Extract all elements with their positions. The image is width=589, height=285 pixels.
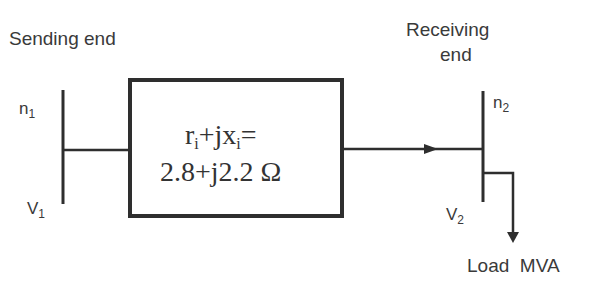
transmission-line-diagram: Sending end Receiving end n1 V1 ri+jxi= … bbox=[0, 0, 589, 285]
impedance-value: 2.8+j2.2 Ω bbox=[160, 156, 281, 187]
voltage1-label: V1 bbox=[27, 199, 45, 221]
power-flow-arrow-icon bbox=[424, 144, 438, 154]
node1-label: n1 bbox=[19, 99, 35, 121]
receiving-end-label-line2: end bbox=[440, 44, 472, 65]
node2-label: n2 bbox=[493, 93, 509, 115]
load-branch bbox=[483, 173, 513, 235]
impedance-formula: ri+jxi= bbox=[185, 119, 257, 152]
load-mva-label: Load MVA bbox=[467, 255, 560, 276]
voltage2-label: V2 bbox=[446, 205, 464, 227]
load-arrow-icon bbox=[507, 232, 519, 243]
sending-end-label: Sending end bbox=[9, 28, 116, 49]
receiving-end-label-line1: Receiving bbox=[406, 19, 489, 40]
